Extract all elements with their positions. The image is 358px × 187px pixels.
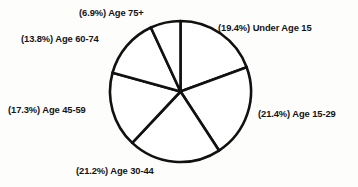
slice-label-age-75-plus: (6.9%) Age 75+ [79, 7, 144, 18]
slice-label-age-45-59: (17.3%) Age 45-59 [8, 104, 86, 115]
slice-label-under-age-15: (19.4%) Under Age 15 [218, 22, 312, 33]
slice-label-age-15-29: (21.4%) Age 15-29 [258, 108, 336, 119]
slice-label-age-60-74: (13.8%) Age 60-74 [21, 33, 99, 44]
slice-label-age-30-44: (21.2%) Age 30-44 [76, 165, 154, 176]
pie-chart: (19.4%) Under Age 15 (21.4%) Age 15-29 (… [0, 0, 358, 187]
pie-slice-group [110, 21, 251, 162]
